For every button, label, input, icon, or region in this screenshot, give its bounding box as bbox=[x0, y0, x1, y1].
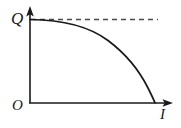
x-axis-label: I bbox=[160, 107, 165, 122]
plot-background bbox=[0, 0, 181, 128]
origin-label: O bbox=[12, 98, 23, 113]
qi-curve-plot bbox=[0, 0, 181, 128]
y-axis-label: Q bbox=[11, 10, 23, 27]
figure-container: Q O I bbox=[0, 0, 181, 128]
